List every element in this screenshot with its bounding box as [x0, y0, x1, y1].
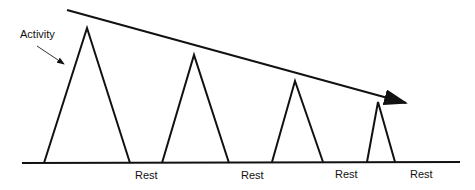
rest-label-2: Rest — [241, 169, 264, 181]
activity-rest-diagram — [0, 0, 475, 190]
rest-label-1: Rest — [135, 169, 158, 181]
activity-label: Activity — [20, 28, 55, 40]
activity-pointer-arrow — [37, 46, 64, 64]
activity-peak-1 — [44, 28, 130, 163]
activity-peak-3 — [272, 81, 323, 162]
activity-peak-4 — [367, 102, 395, 162]
activity-peak-2 — [162, 55, 229, 163]
trend-arrow — [67, 10, 406, 103]
rest-label-3: Rest — [335, 168, 358, 180]
rest-label-4: Rest — [410, 168, 433, 180]
